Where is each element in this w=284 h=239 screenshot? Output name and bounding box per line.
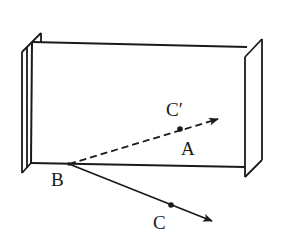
point-A — [177, 126, 183, 132]
label-A: A — [181, 138, 195, 159]
solid-ray-B-to-C — [69, 164, 212, 221]
point-C — [168, 202, 174, 208]
mirror-plane — [31, 42, 247, 167]
label-C-prime: C′ — [166, 99, 183, 120]
diagram-canvas: C′ A B C — [0, 0, 284, 239]
point-B — [67, 162, 71, 166]
label-B: B — [51, 169, 64, 190]
right-stand — [245, 39, 262, 177]
mirror-left-edge — [31, 42, 32, 163]
mirror-bottom-edge — [31, 163, 245, 167]
label-C: C — [153, 212, 166, 233]
mirror-top-edge — [32, 42, 247, 47]
dashed-ray-B-to-Cprime — [69, 119, 218, 164]
